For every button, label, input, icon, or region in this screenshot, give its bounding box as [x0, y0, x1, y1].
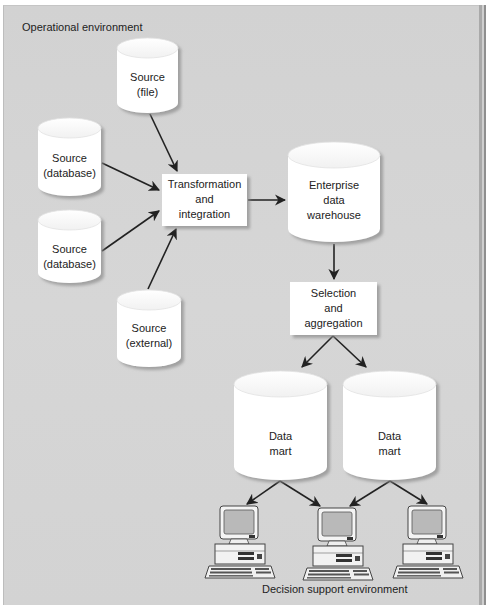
data-mart-2-label: Data mart	[343, 429, 436, 459]
transformation-label: Transformation and integration	[158, 177, 251, 222]
selection-label: Selection and aggregation	[287, 286, 380, 331]
source-database-1-label: Source (database)	[36, 151, 103, 181]
cylinder-data-mart-1[interactable]	[234, 371, 327, 480]
cylinder-data-mart-2[interactable]	[343, 371, 436, 480]
operational-environment-label: Operational environment	[22, 21, 142, 33]
edge-selection-to-mart2	[333, 336, 366, 367]
edge-selection-to-mart1	[302, 336, 333, 367]
edge-mart1-to-ws2	[280, 481, 320, 506]
source-database-2-label: Source (database)	[36, 242, 103, 272]
workstation-icon[interactable]	[303, 508, 373, 580]
edge-db2-to-transformation	[102, 211, 159, 251]
source-file-label: Source (file)	[117, 70, 178, 100]
warehouse-label: Enterprise data warehouse	[288, 178, 380, 223]
edge-db1-to-transformation	[102, 163, 159, 190]
edge-file-to-transformation	[150, 114, 177, 171]
edge-mart2-to-ws3	[390, 481, 427, 504]
edge-external-to-transformation	[148, 229, 176, 289]
source-external-label: Source (external)	[115, 321, 183, 351]
edge-mart2-to-ws2	[350, 481, 390, 506]
decision-support-environment-label: Decision support environment	[262, 583, 408, 595]
workstation-icon[interactable]	[205, 506, 275, 578]
data-mart-1-label: Data mart	[234, 429, 327, 459]
workstation-icon[interactable]	[393, 506, 463, 578]
edge-mart1-to-ws1	[247, 481, 280, 504]
